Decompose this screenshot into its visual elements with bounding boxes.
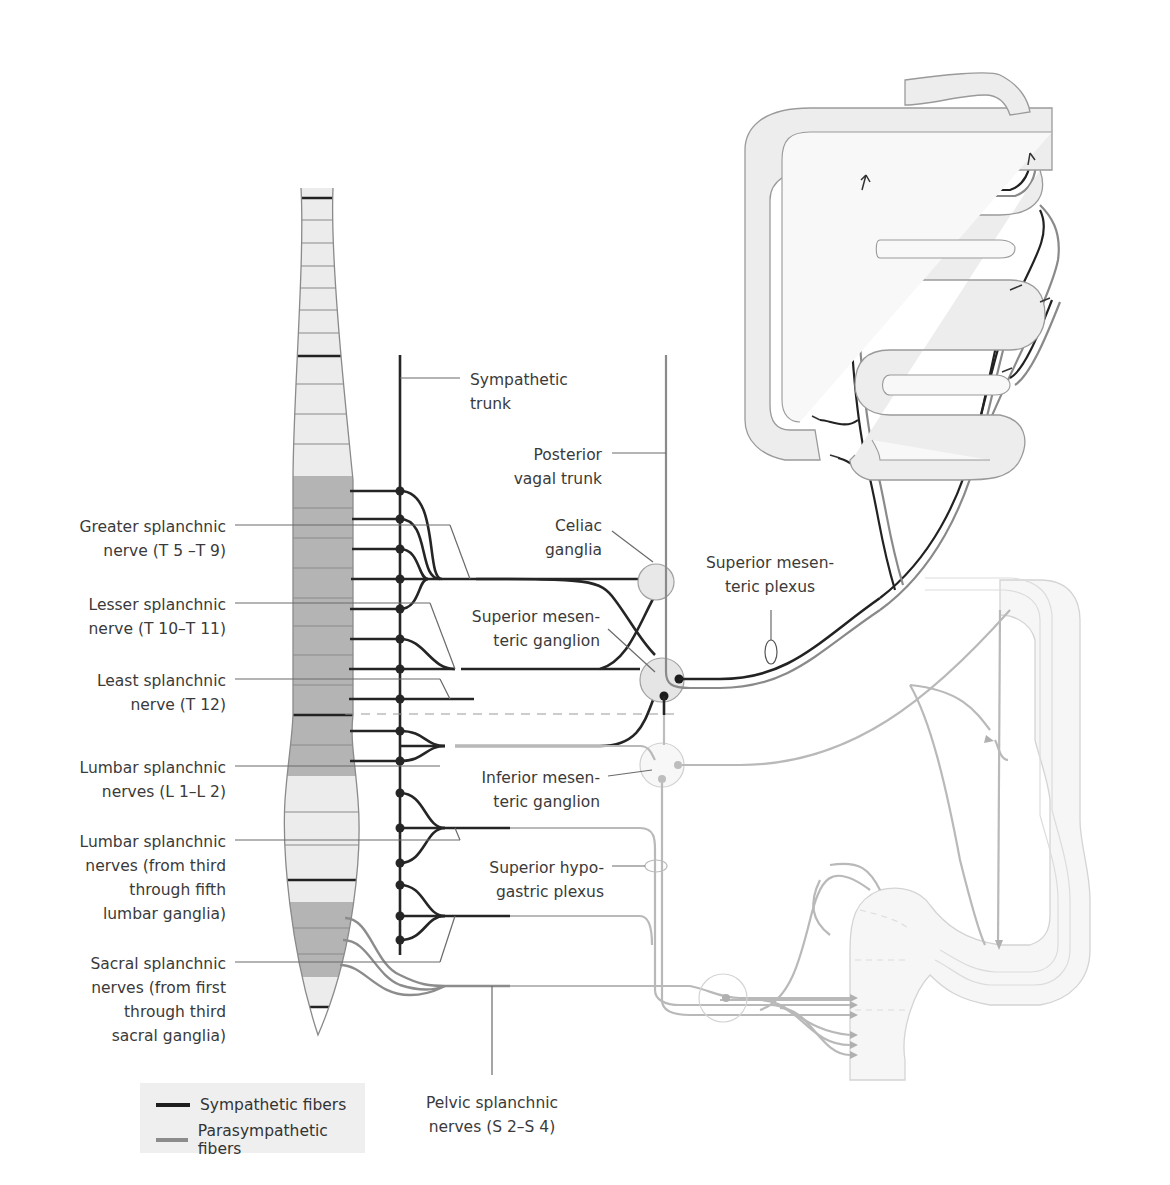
svg-text:nerves (S 2–S 4): nerves (S 2–S 4) bbox=[429, 1118, 556, 1136]
legend-item-parasympathetic: Parasympathetic fibers bbox=[156, 1122, 365, 1158]
label-superior-mesenteric-ganglion: Superior mesen- teric ganglion bbox=[472, 608, 600, 650]
label-posterior-vagal-trunk: Posterior vagal trunk bbox=[514, 446, 603, 488]
spinal-cord bbox=[270, 188, 370, 1037]
label-least-splanchnic: Least splanchnic nerve (T 12) bbox=[97, 672, 226, 714]
superior-mesenteric-plexus-ring bbox=[765, 640, 777, 664]
svg-text:Least splanchnic: Least splanchnic bbox=[97, 672, 226, 690]
svg-text:teric ganglion: teric ganglion bbox=[493, 793, 600, 811]
svg-text:Posterior: Posterior bbox=[533, 446, 602, 464]
svg-text:Superior mesen-: Superior mesen- bbox=[472, 608, 600, 626]
svg-text:Lumbar splanchnic: Lumbar splanchnic bbox=[80, 833, 226, 851]
legend-label-parasympathetic: Parasympathetic fibers bbox=[198, 1122, 365, 1158]
svg-text:nerve (T 5 –T 9): nerve (T 5 –T 9) bbox=[103, 542, 226, 560]
label-superior-mesenteric-plexus: Superior mesen- teric plexus bbox=[706, 554, 834, 596]
pelvic-ganglion-dot bbox=[722, 994, 730, 1002]
svg-text:vagal trunk: vagal trunk bbox=[514, 470, 602, 488]
label-sympathetic-trunk: Sympathetic trunk bbox=[470, 371, 568, 413]
svg-text:Celiac: Celiac bbox=[555, 517, 602, 535]
legend-label-sympathetic: Sympathetic fibers bbox=[200, 1096, 346, 1114]
svg-text:through fifth: through fifth bbox=[129, 881, 226, 899]
svg-text:lumbar ganglia): lumbar ganglia) bbox=[103, 905, 226, 923]
sympathetic-swatch-icon bbox=[156, 1103, 190, 1107]
legend: Sympathetic fibers Parasympathetic fiber… bbox=[140, 1083, 365, 1153]
svg-text:Lumbar splanchnic: Lumbar splanchnic bbox=[80, 759, 226, 777]
sympathetic-trunk bbox=[349, 355, 510, 955]
posterior-vagal-trunk bbox=[664, 355, 880, 745]
svg-text:gastric plexus: gastric plexus bbox=[496, 883, 604, 901]
inferior-mesenteric-ganglion bbox=[640, 743, 684, 787]
svg-text:Sympathetic: Sympathetic bbox=[470, 371, 568, 389]
svg-text:nerves (from first: nerves (from first bbox=[91, 979, 226, 997]
label-lesser-splanchnic: Lesser splanchnic nerve (T 10–T 11) bbox=[89, 596, 226, 638]
splanchnic-nerves bbox=[455, 579, 660, 746]
svg-text:ganglia: ganglia bbox=[545, 541, 602, 559]
label-inferior-mesenteric-ganglion: Inferior mesen- teric ganglion bbox=[481, 769, 600, 811]
label-lumbar-splanchnic-3-5: Lumbar splanchnic nerves (from third thr… bbox=[80, 833, 226, 923]
svg-text:sacral ganglia): sacral ganglia) bbox=[112, 1027, 226, 1045]
label-lumbar-splanchnic-l1-l2: Lumbar splanchnic nerves (L 1–L 2) bbox=[80, 759, 226, 801]
label-celiac-ganglia: Celiac ganglia bbox=[545, 517, 602, 559]
lower-parasympathetic-fibers bbox=[455, 610, 1010, 1055]
svg-text:teric plexus: teric plexus bbox=[725, 578, 815, 596]
celiac-ganglia bbox=[638, 564, 674, 600]
label-pelvic-splanchnic: Pelvic splanchnic nerves (S 2–S 4) bbox=[426, 1094, 558, 1136]
svg-text:Superior mesen-: Superior mesen- bbox=[706, 554, 834, 572]
svg-text:Pelvic splanchnic: Pelvic splanchnic bbox=[426, 1094, 558, 1112]
svg-text:Greater splanchnic: Greater splanchnic bbox=[79, 518, 226, 536]
svg-text:Inferior mesen-: Inferior mesen- bbox=[481, 769, 600, 787]
svg-text:Lesser splanchnic: Lesser splanchnic bbox=[89, 596, 226, 614]
legend-item-sympathetic: Sympathetic fibers bbox=[156, 1096, 346, 1114]
parasympathetic-swatch-icon bbox=[156, 1138, 188, 1142]
svg-text:Sacral splanchnic: Sacral splanchnic bbox=[90, 955, 226, 973]
svg-text:nerves (L 1–L 2): nerves (L 1–L 2) bbox=[102, 783, 226, 801]
svg-text:through third: through third bbox=[124, 1003, 226, 1021]
label-greater-splanchnic: Greater splanchnic nerve (T 5 –T 9) bbox=[79, 518, 226, 560]
svg-text:nerve (T 10–T 11): nerve (T 10–T 11) bbox=[89, 620, 226, 638]
label-sacral-splanchnic: Sacral splanchnic nerves (from first thr… bbox=[90, 955, 226, 1045]
svg-text:teric ganglion: teric ganglion bbox=[493, 632, 600, 650]
diagram-canvas: Greater splanchnic nerve (T 5 –T 9) Less… bbox=[0, 0, 1170, 1185]
label-superior-hypogastric-plexus: Superior hypo- gastric plexus bbox=[489, 859, 604, 901]
svg-text:trunk: trunk bbox=[470, 395, 511, 413]
svg-text:nerve (T 12): nerve (T 12) bbox=[130, 696, 226, 714]
svg-text:Superior hypo-: Superior hypo- bbox=[489, 859, 604, 877]
pelvic-splanchnic-nerves bbox=[340, 918, 510, 995]
svg-text:nerves (from third: nerves (from third bbox=[85, 857, 226, 875]
lower-colon bbox=[850, 580, 1090, 1080]
